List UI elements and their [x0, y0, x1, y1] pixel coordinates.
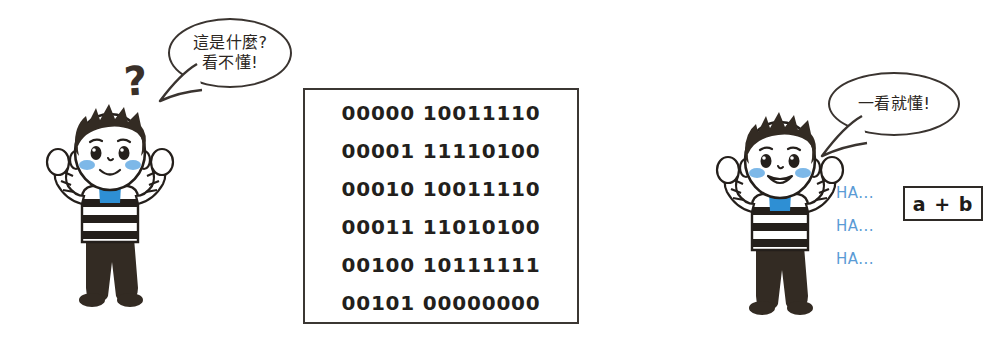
eye-left [91, 146, 102, 160]
code-line: 00100 10111111 [341, 255, 540, 275]
bubble-left-line-1: 這是什麼? [193, 33, 268, 53]
foot-left [749, 301, 775, 315]
code-line: 00000 10011110 [341, 103, 540, 123]
hand-right [151, 149, 173, 175]
binary-code-box: 00000 10011110 00001 11110100 00010 1001… [303, 88, 579, 324]
speech-bubble-tail-right [812, 112, 872, 160]
eye-highlight-right [120, 148, 124, 152]
comic-scene: ? 這是什麼? 看不懂! 00000 10011110 00001 111101… [0, 0, 1004, 348]
ha-line: HA... [836, 252, 874, 267]
code-line: 00011 11010100 [341, 217, 540, 237]
blush-right [795, 168, 811, 178]
foot-right [117, 293, 143, 307]
foot-left [79, 293, 105, 307]
code-line: 00101 00000000 [341, 293, 540, 313]
shirt-stripe [752, 223, 808, 231]
shirt-stripe [752, 239, 808, 247]
speech-bubble-tail-left [150, 60, 210, 105]
ha-text-stack: HA... HA... HA... [836, 186, 874, 285]
eye-left [761, 154, 772, 168]
eye-highlight-left [92, 148, 96, 152]
blush-right [125, 160, 141, 170]
shirt-stripe [82, 231, 138, 239]
blush-left [749, 168, 765, 178]
bubble-left-line-2: 看不懂! [202, 53, 258, 73]
formula-text: a + b [913, 193, 974, 215]
ha-line: HA... [836, 219, 874, 234]
pants [756, 246, 808, 309]
code-line: 00001 11110100 [341, 141, 540, 161]
eye-right [789, 154, 800, 168]
formula-box: a + b [903, 186, 983, 221]
hand-right [821, 157, 843, 183]
hand-left [47, 149, 69, 175]
question-mark-icon: ? [123, 60, 149, 102]
code-line: 00010 10011110 [341, 179, 540, 199]
bubble-right-line-1: 一看就懂! [858, 94, 931, 114]
eye-right [119, 146, 130, 160]
ha-line: HA... [836, 186, 874, 201]
hand-left [717, 157, 739, 183]
character-confused-boy [30, 100, 190, 315]
pants [86, 238, 138, 301]
foot-right [787, 301, 813, 315]
eye-highlight-right [790, 156, 794, 160]
blush-left [79, 160, 95, 170]
eye-highlight-left [762, 156, 766, 160]
shirt-stripe [82, 215, 138, 223]
